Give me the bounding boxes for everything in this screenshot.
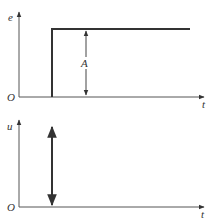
top-x-label: t [202,98,206,110]
step-impulse-diagram: e t O A u t O [0,0,212,219]
bottom-plot: u t O [7,120,205,219]
top-plot: e t O A [7,11,206,110]
top-origin-label: O [7,91,15,103]
step-signal [52,29,190,97]
bottom-x-label: t [201,208,205,219]
bottom-y-label: u [7,120,13,132]
amplitude-label: A [80,57,88,69]
top-y-label: e [8,11,13,23]
bottom-origin-label: O [7,201,15,213]
